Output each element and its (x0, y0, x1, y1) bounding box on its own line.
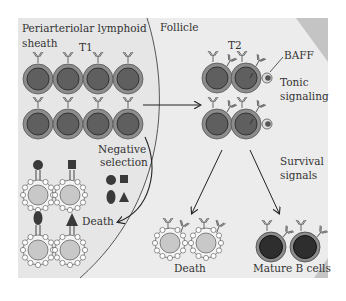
tonic-signaling-label-line2: signaling (280, 90, 329, 102)
mature-b-cells-label: Mature B cells (253, 262, 331, 274)
negative-selection-label: Negative (98, 143, 146, 155)
b-cell-maturation-diagram: Periarteriolar lymphoid sheath Follicle … (0, 0, 346, 301)
survival-signals-label: Survival (280, 155, 324, 167)
baff-label: BAFF (284, 49, 314, 61)
death-left-label: Death (82, 215, 114, 227)
follicle-label: Follicle (160, 21, 199, 33)
tonic-signaling-label: Tonic (280, 76, 309, 88)
survival-signals-label-line2: signals (280, 169, 317, 181)
t2-label: T2 (228, 39, 242, 51)
pals-label: Periarteriolar lymphoid (22, 22, 147, 34)
negative-selection-label-line2: selection (100, 156, 148, 168)
death-bottom-label: Death (174, 262, 206, 274)
pals-label-line2: sheath (22, 37, 58, 49)
t1-label: T1 (79, 41, 93, 53)
